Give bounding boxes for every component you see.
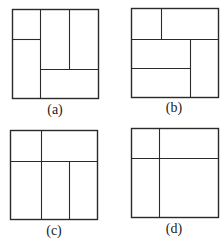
panel-c <box>11 131 98 220</box>
panel-b-outline <box>132 9 219 98</box>
panel-c-outline <box>11 131 98 220</box>
panel-a <box>13 10 99 99</box>
panel-b-label: (b) <box>154 100 194 116</box>
panel-d <box>132 129 219 218</box>
panel-a-label: (a) <box>35 102 75 118</box>
panel-a-outline <box>13 10 99 99</box>
panel-d-outline <box>132 129 219 218</box>
panel-c-label: (c) <box>34 223 74 239</box>
panel-d-label: (d) <box>154 221 194 237</box>
panel-b <box>132 9 219 98</box>
floorplan-partition-diagram <box>0 0 223 247</box>
